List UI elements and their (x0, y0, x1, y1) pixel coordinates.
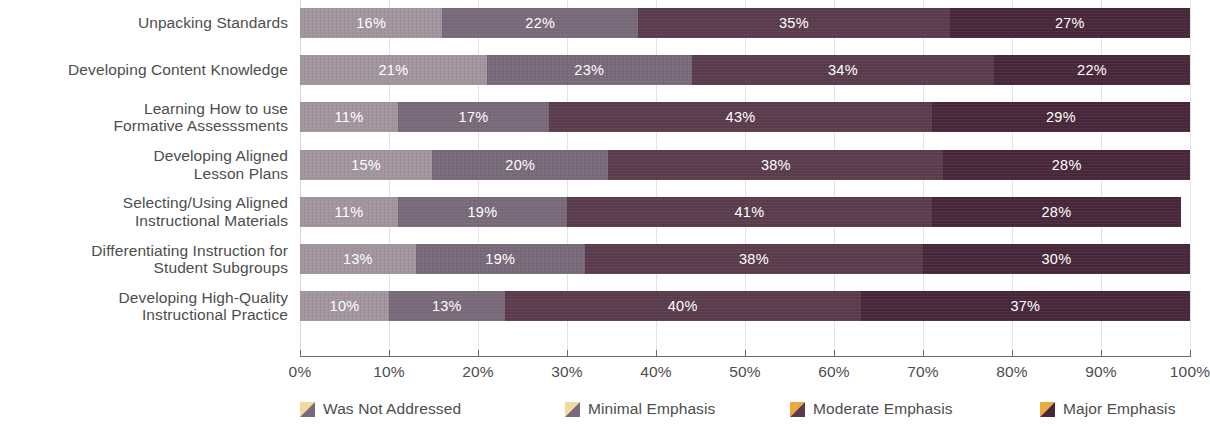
bar-segment: 11% (300, 102, 398, 132)
stacked-bar: 21%23%34%22% (300, 55, 1190, 85)
x-axis-tick-label: 90% (1085, 363, 1117, 381)
x-axis-tick (1101, 350, 1102, 357)
x-axis-tick (656, 350, 657, 357)
x-axis-tick-label: 80% (996, 363, 1028, 381)
bar-segment: 23% (487, 55, 692, 85)
category-label: Learning How to useFormative Assesssment… (0, 100, 288, 135)
bar-row: 16%22%35%27% (300, 8, 1190, 38)
bar-row: 13%19%38%30% (300, 244, 1190, 274)
category-label-line: Student Subgroups (0, 259, 288, 277)
gridline-100 (1190, 0, 1191, 352)
category-label-line: Differentiating Instruction for (0, 242, 288, 260)
legend-label: Major Emphasis (1063, 400, 1176, 418)
chart-legend: Was Not AddressedMinimal EmphasisModerat… (300, 398, 1190, 422)
legend-label: Was Not Addressed (323, 400, 461, 418)
stacked-bar: 10%13%40%37% (300, 291, 1190, 321)
category-label: Developing Content Knowledge (0, 61, 288, 79)
x-axis-tick (567, 350, 568, 357)
legend-item[interactable]: Moderate Emphasis (790, 398, 953, 420)
category-label-line: Lesson Plans (0, 165, 288, 183)
bar-segment: 28% (932, 197, 1181, 227)
x-axis-tick (1012, 350, 1013, 357)
bar-segment: 20% (432, 150, 608, 180)
bar-segment: 22% (442, 8, 638, 38)
legend-item[interactable]: Was Not Addressed (300, 398, 461, 420)
category-label: Unpacking Standards (0, 14, 288, 32)
category-label-line: Unpacking Standards (0, 14, 288, 32)
bar-segment: 41% (567, 197, 932, 227)
stacked-bar: 11%17%43%29% (300, 102, 1190, 132)
bar-segment: 16% (300, 8, 442, 38)
bar-row: 10%13%40%37% (300, 291, 1190, 321)
segment-value-label: 11% (335, 109, 364, 125)
category-label-line: Instructional Practice (0, 306, 288, 324)
segment-value-label: 29% (1046, 109, 1076, 125)
segment-value-label: 30% (1042, 251, 1072, 267)
x-axis-tick (389, 350, 390, 357)
segment-value-label: 17% (459, 109, 489, 125)
bar-segment: 38% (585, 244, 923, 274)
x-axis-tick-label: 100% (1170, 363, 1210, 381)
segment-value-label: 19% (485, 251, 515, 267)
segment-value-label: 43% (726, 109, 756, 125)
bar-segment: 27% (950, 8, 1190, 38)
legend-swatch-icon (565, 402, 580, 417)
category-label-line: Developing High-Quality (0, 289, 288, 307)
bar-segment: 10% (300, 291, 389, 321)
x-axis-tick-label: 0% (289, 363, 312, 381)
stacked-bar: 11%19%41%28% (300, 197, 1190, 227)
bar-segment: 34% (692, 55, 995, 85)
legend-label: Moderate Emphasis (813, 400, 953, 418)
segment-value-label: 13% (432, 298, 462, 314)
x-axis-tick-label: 70% (907, 363, 939, 381)
category-label-line: Instructional Materials (0, 212, 288, 230)
legend-swatch-icon (1040, 402, 1055, 417)
category-label-line: Developing Content Knowledge (0, 61, 288, 79)
legend-label: Minimal Emphasis (588, 400, 715, 418)
segment-value-label: 38% (739, 251, 769, 267)
category-label-line: Selecting/Using Aligned (0, 194, 288, 212)
bar-segment: 13% (300, 244, 416, 274)
bar-segment: 40% (505, 291, 861, 321)
bar-segment: 15% (300, 150, 432, 180)
segment-value-label: 15% (351, 157, 381, 173)
bar-segment: 43% (549, 102, 932, 132)
bar-row: 15%20%38%28% (300, 150, 1190, 180)
x-axis-tick-label: 20% (462, 363, 494, 381)
bar-segment: 37% (861, 291, 1190, 321)
segment-value-label: 22% (525, 15, 555, 31)
segment-value-label: 23% (574, 62, 604, 78)
bar-row: 11%17%43%29% (300, 102, 1190, 132)
plot-area: 16%22%35%27%21%23%34%22%11%17%43%29%15%2… (300, 0, 1190, 352)
x-axis-tick (1190, 350, 1191, 357)
segment-value-label: 35% (779, 15, 809, 31)
x-axis-tick-label: 50% (729, 363, 761, 381)
segment-value-label: 27% (1055, 15, 1085, 31)
segment-value-label: 16% (356, 15, 386, 31)
bar-segment: 38% (608, 150, 943, 180)
legend-swatch-icon (790, 402, 805, 417)
stacked-bar: 15%20%38%28% (300, 150, 1190, 180)
bar-segment: 19% (416, 244, 585, 274)
bar-segment: 19% (398, 197, 567, 227)
segment-value-label: 28% (1052, 157, 1082, 173)
x-axis-tick-label: 60% (818, 363, 850, 381)
segment-value-label: 13% (343, 251, 373, 267)
bar-segment: 17% (398, 102, 549, 132)
segment-value-label: 11% (335, 204, 364, 220)
segment-value-label: 40% (668, 298, 698, 314)
x-axis-tick (923, 350, 924, 357)
segment-value-label: 34% (828, 62, 858, 78)
bar-row: 21%23%34%22% (300, 55, 1190, 85)
legend-item[interactable]: Major Emphasis (1040, 398, 1176, 420)
bar-segment: 21% (300, 55, 487, 85)
bar-segment: 11% (300, 197, 398, 227)
bar-segment: 35% (638, 8, 950, 38)
bar-segment: 22% (994, 55, 1190, 85)
bar-row: 11%19%41%28% (300, 197, 1190, 227)
category-label: Differentiating Instruction forStudent S… (0, 242, 288, 277)
stacked-bar: 13%19%38%30% (300, 244, 1190, 274)
legend-item[interactable]: Minimal Emphasis (565, 398, 715, 420)
bar-segment: 28% (943, 150, 1190, 180)
